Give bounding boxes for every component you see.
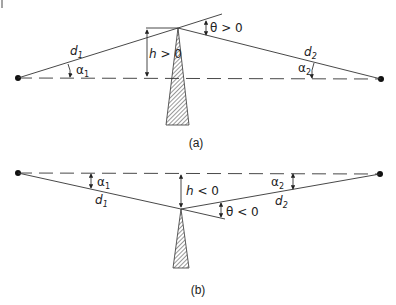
- label-d2: d2: [304, 45, 317, 61]
- label-height: h > 0: [149, 47, 182, 61]
- knife-edge-obstacle: [166, 28, 189, 125]
- diffraction-geometry-diagram: d1 α1 h > 0 θ > 0 d2 α2 (a) α1 d1 h < 0 …: [0, 0, 396, 305]
- label-alpha2: α2: [298, 61, 311, 77]
- panel-b: α1 d1 h < 0 θ < 0 α2 d2 (b): [15, 170, 383, 297]
- path-d1-extension: [181, 209, 225, 219]
- knife-edge-obstacle: [173, 209, 189, 268]
- label-d1: d1: [95, 193, 108, 209]
- alpha2-arrow: [312, 63, 314, 78]
- path-d2: [178, 28, 381, 79]
- label-alpha1: α1: [97, 175, 110, 191]
- label-alpha1: α1: [76, 63, 89, 79]
- label-height: h < 0: [186, 184, 219, 198]
- line-of-sight-dashed: [18, 78, 381, 79]
- label-d2: d2: [275, 194, 288, 210]
- panel-a: d1 α1 h > 0 θ > 0 d2 α2 (a): [15, 14, 384, 150]
- caption-b: (b): [191, 283, 206, 297]
- label-theta: θ > 0: [210, 21, 243, 35]
- alpha1-arrow: [68, 64, 70, 77]
- label-d1: d1: [70, 44, 83, 60]
- caption-a: (a): [189, 136, 204, 150]
- label-alpha2: α2: [271, 175, 284, 191]
- label-theta: θ < 0: [226, 205, 259, 219]
- line-of-sight-dashed: [18, 173, 380, 174]
